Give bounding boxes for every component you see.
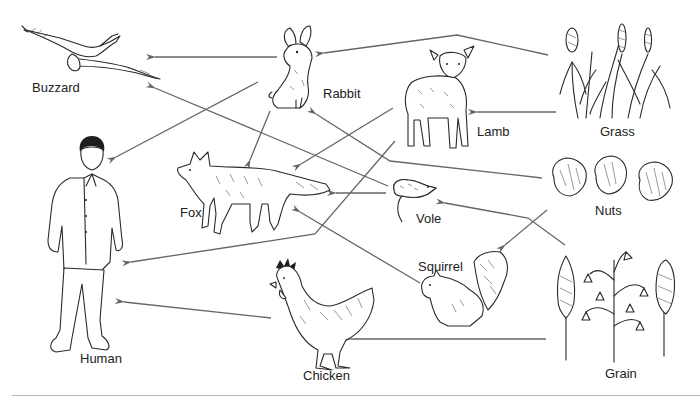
buzzard-illustration [22, 26, 160, 79]
label-chicken: Chicken [303, 368, 350, 383]
arrow-grass-to-rabbit [324, 35, 548, 55]
label-grain: Grain [605, 366, 637, 381]
label-rabbit: Rabbit [323, 86, 361, 101]
label-fox: Fox [180, 205, 202, 220]
label-human: Human [80, 351, 122, 366]
rabbit-illustration [269, 26, 312, 108]
label-grass: Grass [600, 124, 635, 139]
chicken-illustration [270, 258, 374, 370]
bottom-divider [12, 395, 700, 396]
human-illustration [48, 136, 123, 352]
arrow-squirrel-to-fox [300, 212, 420, 283]
label-squirrel: Squirrel [418, 259, 463, 274]
lamb-illustration [405, 46, 474, 148]
label-lamb: Lamb [477, 124, 510, 139]
nuts-illustration [553, 156, 673, 200]
label-nuts: Nuts [595, 203, 622, 218]
grass-illustration [560, 24, 670, 118]
food-web-diagram: Buzzard Rabbit Lamb Grass Human Fox Vole… [0, 0, 700, 400]
label-vole: Vole [416, 211, 441, 226]
fox-illustration [177, 152, 330, 234]
arrow-grain-to-vole [445, 203, 565, 245]
arrow-rabbit-to-human [116, 82, 258, 157]
grain-illustration [557, 252, 674, 362]
arrow-chicken-to-human [124, 302, 271, 318]
label-buzzard: Buzzard [32, 80, 80, 95]
